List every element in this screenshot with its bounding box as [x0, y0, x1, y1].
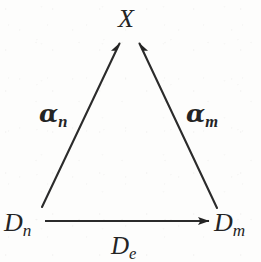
de-subscript: e	[129, 244, 137, 262]
alpha-m-subscript: m	[205, 112, 218, 131]
de-base: D	[111, 232, 129, 259]
alpha-n-base: α	[39, 99, 58, 128]
node-dm-subscript: m	[233, 221, 246, 240]
edge-label-alpha-n: αn	[39, 101, 68, 131]
node-x-base: X	[118, 4, 134, 33]
node-label-dm: Dm	[214, 210, 245, 240]
node-dn-subscript: n	[23, 221, 32, 240]
node-label-dn: Dn	[4, 210, 32, 240]
edge-label-alpha-m: αm	[186, 101, 218, 131]
alpha-n-subscript: n	[58, 112, 67, 131]
diagram-canvas: X Dn Dm αn αm De	[0, 0, 261, 262]
alpha-m-base: α	[186, 99, 205, 128]
node-dn-base: D	[4, 208, 23, 237]
edge-label-de: De	[111, 233, 137, 262]
node-dm-base: D	[214, 208, 233, 237]
node-label-x: X	[118, 6, 134, 32]
